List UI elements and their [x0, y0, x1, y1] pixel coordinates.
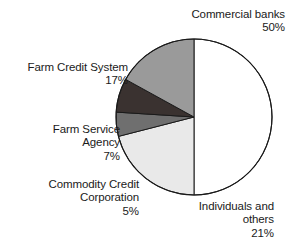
slice-label-commodity-credit-corporation: Commodity Credit Corporation 5%: [2, 178, 139, 218]
slice-label-farm-credit-system: Farm Credit System 17%: [6, 61, 128, 88]
slice-label-commercial-banks: Commercial banks 50%: [163, 8, 285, 35]
pie-chart: Commercial banks 50% Farm Credit System …: [0, 0, 289, 252]
pie-slice-commercial-banks: [194, 39, 272, 195]
slice-label-farm-service-agency: Farm Service Agency 7%: [6, 123, 120, 163]
pie-slice-group: [116, 39, 272, 195]
slice-label-individuals-and-others: Individuals and others 21%: [168, 200, 274, 240]
